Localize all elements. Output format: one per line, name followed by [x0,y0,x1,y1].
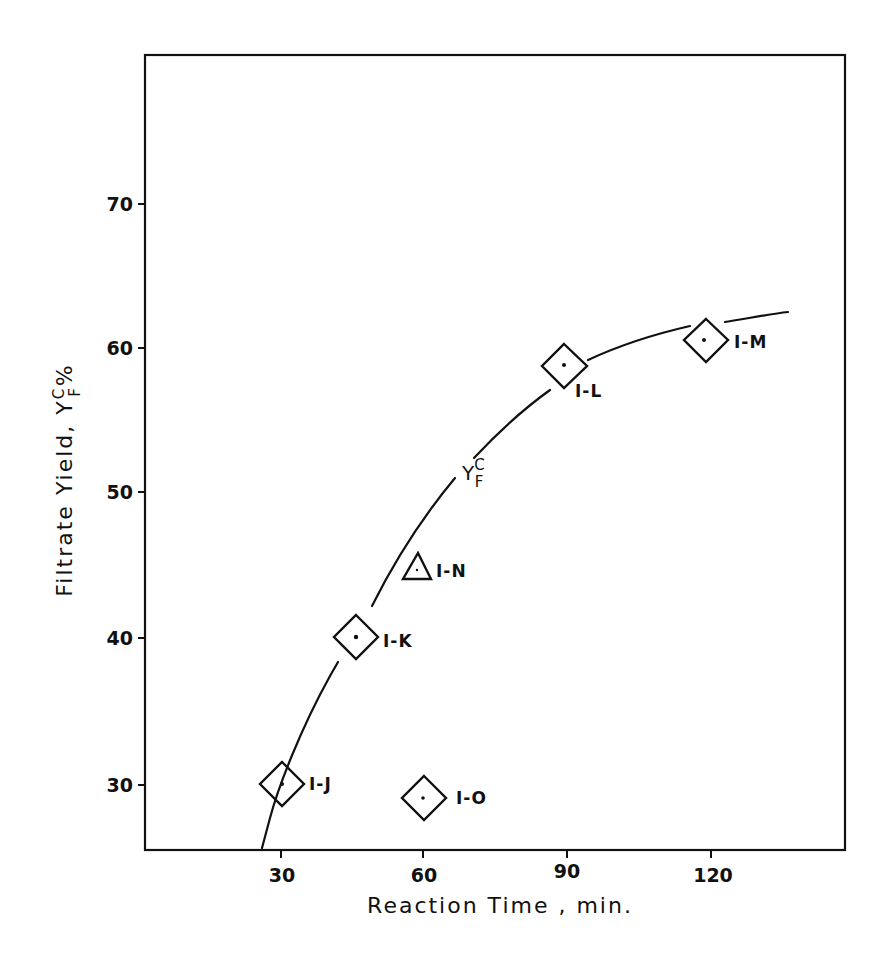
data-point-I-O [402,776,446,820]
x-axis-title: Reaction Time , min. [367,893,633,918]
y-tick-40: 40 [107,627,133,649]
y-axis-title-sub: F [66,386,84,397]
y-tick-70: 70 [107,193,133,215]
x-axis [281,850,711,858]
label-I-J: I-J [309,774,332,794]
fitted-curve [262,312,788,848]
label-I-L: I-L [575,381,602,401]
x-tick-120: 120 [693,864,733,886]
data-point-I-N [403,553,431,579]
chart: 70 60 50 40 30 30 60 90 120 Reaction Tim… [0,0,889,964]
y-axis-title-main: Filtrate Yield, Y [52,399,77,596]
y-tick-30: 30 [107,774,133,796]
plot-frame [145,55,845,850]
point-labels: I-J I-K I-N I-O I-L I-M [309,332,767,808]
label-I-N: I-N [436,561,467,581]
data-points [260,319,728,820]
x-tick-90: 90 [554,860,580,882]
y-tick-50: 50 [107,481,133,503]
y-axis-title-pct: % [52,363,77,386]
x-tick-30: 30 [269,864,295,886]
label-I-M: I-M [734,332,767,352]
y-tick-60: 60 [107,337,133,359]
y-axis-title: Filtrate Yield, YCF% [50,363,84,596]
label-I-O: I-O [456,788,487,808]
x-tick-labels: 30 60 90 120 [269,860,733,886]
svg-text:Filtrate Yield, YCF%: Filtrate Yield, YCF% [50,363,84,596]
data-point-I-K [334,615,378,659]
triangle-marker-icon [403,553,431,579]
data-point-I-J [260,762,304,806]
y-tick-labels: 70 60 50 40 30 [107,193,133,796]
curve-label: YCF [461,456,485,491]
label-I-K: I-K [383,631,413,651]
x-tick-60: 60 [411,864,437,886]
